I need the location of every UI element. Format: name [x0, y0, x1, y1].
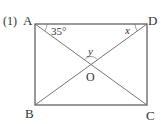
center-label-O: O [86, 70, 95, 84]
vertex-label-B: B [25, 106, 34, 121]
rectangle-diagram: (1) A D B C O 35° x y [0, 0, 161, 124]
angle-arc-D [135, 24, 137, 31]
problem-number: (1) [3, 14, 17, 28]
angle-arc-A [45, 24, 47, 31]
vertex-label-C: C [146, 108, 155, 123]
vertex-label-A: A [23, 13, 33, 28]
vertex-label-D: D [148, 13, 157, 28]
angle-label-y: y [87, 45, 93, 57]
angle-label-x: x [124, 24, 130, 36]
angle-label-A: 35° [51, 25, 66, 37]
